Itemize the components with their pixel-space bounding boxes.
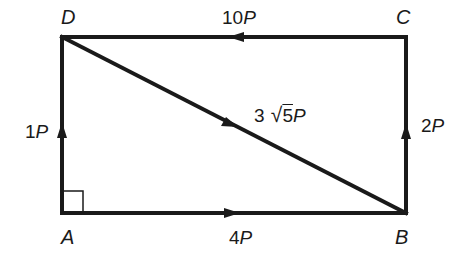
force-magnitude: 2: [421, 115, 432, 136]
force-label-1p: 1P: [25, 122, 48, 141]
force-unit: P: [240, 227, 253, 248]
force-label-4p: 4P: [229, 228, 252, 247]
vertex-label-a: A: [61, 227, 74, 247]
force-unit: P: [243, 7, 256, 28]
arrow-right-icon: [224, 208, 240, 218]
force-label-2p: 2P: [421, 116, 444, 135]
right-angle-marker: [62, 191, 83, 213]
vertex-label-c: C: [396, 7, 410, 27]
arrow-left-icon: [228, 32, 244, 42]
force-unit: P: [293, 105, 306, 126]
arrow-up-icon: [57, 122, 67, 138]
force-label-10p: 10P: [222, 8, 256, 27]
force-magnitude: 4: [229, 227, 240, 248]
radicand: 5: [282, 105, 293, 126]
vertex-label-b: B: [395, 227, 408, 247]
force-magnitude: 1: [25, 121, 36, 142]
force-unit: P: [432, 115, 445, 136]
force-magnitude: 10: [222, 7, 243, 28]
force-diagram: [0, 0, 462, 263]
force-label-diagonal: 3 √5P: [254, 104, 306, 125]
sqrt-icon: √: [271, 103, 283, 126]
force-magnitude: 3: [254, 105, 265, 126]
force-unit: P: [36, 121, 49, 142]
arrow-up-icon: [401, 123, 411, 139]
vertex-label-d: D: [61, 7, 75, 27]
